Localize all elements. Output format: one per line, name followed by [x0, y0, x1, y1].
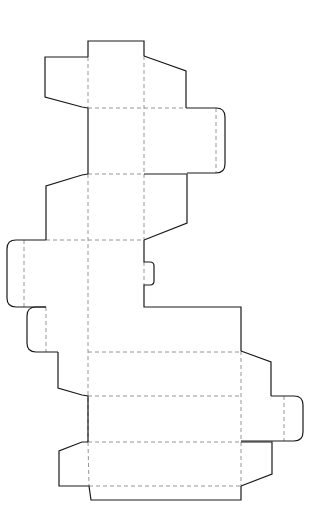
top-right-dust-flap [144, 56, 186, 108]
lower-left-flap [58, 352, 88, 442]
bottom-right-flap [241, 442, 272, 486]
upper-right-side-panel [186, 108, 225, 173]
lower-right-side-panel [241, 396, 303, 441]
glue-tab [27, 307, 58, 352]
bottom-left-flap [59, 442, 241, 500]
left-side-panel [7, 240, 46, 307]
right-edge-with-lock-tab [144, 240, 241, 351]
box-dieline-diagram [0, 0, 312, 507]
top-left-dust-flap [45, 57, 88, 108]
fold-v-left-bottom [88, 442, 89, 486]
mid-left-flap [46, 174, 88, 240]
top-tuck-tab [88, 41, 144, 57]
lower-right-flap [241, 351, 271, 396]
mid-right-flap [144, 174, 187, 240]
cut-lines [7, 41, 303, 500]
